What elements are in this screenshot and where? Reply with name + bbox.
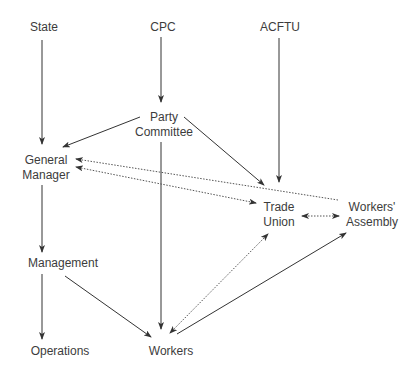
edge-party-gm (63, 117, 140, 147)
diagram-edges (0, 0, 416, 381)
node-workers-assembly: Workers' Assembly (346, 200, 398, 230)
node-workers-assembly-line1: Workers' (346, 200, 398, 215)
node-management: Management (28, 256, 98, 271)
node-cpc-label: CPC (150, 20, 175, 34)
node-operations-label: Operations (31, 344, 90, 358)
edge-workers-tu (170, 234, 268, 333)
node-trade-union-line2: Union (263, 215, 294, 230)
node-workers-assembly-line2: Assembly (346, 215, 398, 230)
node-trade-union: Trade Union (263, 200, 294, 230)
edge-wa-gm (76, 159, 338, 200)
node-general-manager-line1: General (22, 153, 69, 168)
node-acftu-label: ACFTU (260, 20, 300, 34)
edge-mgmt-workers (65, 276, 151, 337)
node-management-label: Management (28, 256, 98, 270)
edge-party-tu (184, 117, 264, 185)
node-party-committee-line2: Committee (135, 125, 193, 140)
node-party-committee-line1: Party (135, 110, 193, 125)
node-state: State (30, 20, 58, 35)
node-general-manager-line2: Manager (22, 168, 69, 183)
node-workers-label: Workers (149, 344, 193, 358)
node-workers: Workers (149, 344, 193, 359)
node-operations: Operations (31, 344, 90, 359)
edge-tu-gm (76, 167, 256, 203)
node-acftu: ACFTU (260, 20, 300, 35)
node-general-manager: General Manager (22, 153, 69, 183)
node-cpc: CPC (150, 20, 175, 35)
node-party-committee: Party Committee (135, 110, 193, 140)
node-state-label: State (30, 20, 58, 34)
edge-workers-wa (177, 233, 346, 334)
node-trade-union-line1: Trade (263, 200, 294, 215)
